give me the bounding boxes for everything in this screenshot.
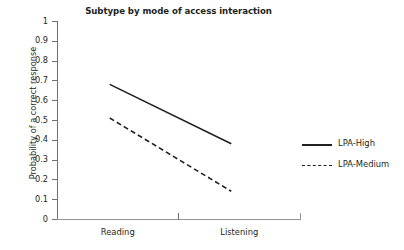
y-axis-tick	[52, 160, 57, 161]
y-axis-tick	[52, 120, 57, 121]
y-axis-tick	[52, 199, 57, 200]
legend-item-lpa-medium[interactable]: LPA-Medium	[302, 159, 402, 180]
chart-legend: LPA-High LPA-Medium	[302, 138, 402, 180]
series-plot-area	[0, 0, 404, 250]
x-axis-end-tick	[300, 213, 301, 220]
y-axis-tick-label: 0.4	[8, 134, 48, 144]
legend-label: LPA-High	[338, 138, 375, 148]
y-axis-tick-label: 0.5	[8, 115, 48, 125]
y-axis-tick	[52, 219, 57, 220]
y-axis-tick-label: 0.9	[8, 35, 48, 45]
y-axis-tick-label: 0.6	[8, 95, 48, 105]
y-axis-tick	[52, 100, 57, 101]
legend-label: LPA-Medium	[338, 159, 389, 169]
y-axis-tick-label: 0.2	[8, 174, 48, 184]
y-axis-tick	[52, 21, 57, 22]
legend-swatch-solid-line-icon	[302, 144, 332, 146]
y-axis-tick-label: 0.8	[8, 55, 48, 65]
y-axis-tick-label: 0.7	[8, 75, 48, 85]
x-axis-category-label: Reading	[58, 227, 178, 237]
y-axis-tick	[52, 41, 57, 42]
y-axis-tick	[52, 179, 57, 180]
y-axis-tick-label: 0	[8, 214, 48, 224]
series-line-lpa-medium	[110, 118, 232, 191]
y-axis-line	[57, 21, 58, 220]
y-axis-title: Probability of a correct response	[28, 28, 38, 198]
chart-title: Subtype by mode of access interaction	[57, 6, 300, 16]
y-axis-tick-label: 0.3	[8, 154, 48, 164]
series-line-lpa-high	[110, 84, 232, 143]
y-axis-tick-label: 1	[8, 16, 48, 26]
y-axis-tick	[52, 61, 57, 62]
chart-container: Subtype by mode of access interaction Pr…	[0, 0, 404, 250]
y-axis-tick-label: 0.1	[8, 194, 48, 204]
x-axis-category-label: Listening	[179, 227, 299, 237]
x-axis-line	[57, 219, 301, 220]
y-axis-tick	[52, 140, 57, 141]
legend-swatch-dashed-line-icon	[302, 165, 332, 166]
y-axis-tick	[52, 80, 57, 81]
x-axis-divider-tick	[178, 213, 179, 220]
legend-item-lpa-high[interactable]: LPA-High	[302, 138, 402, 159]
